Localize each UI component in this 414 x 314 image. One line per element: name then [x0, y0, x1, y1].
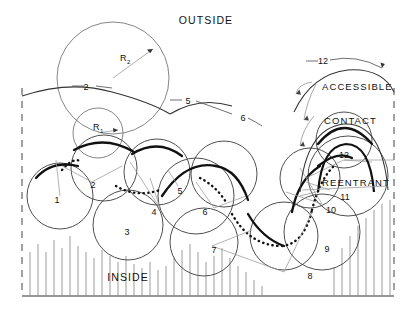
pointer-contact: [304, 84, 316, 120]
atom-sphere-3: [93, 190, 163, 260]
atom-sphere-7: [170, 208, 238, 276]
figure-canvas: OUTSIDE INSIDE ACCESSIBLE CONTACT REENTR…: [0, 0, 414, 314]
atom-label-10: 10: [326, 205, 336, 215]
atom-label-4: 4: [151, 207, 156, 217]
leader-arc-2-right: [96, 86, 112, 88]
radius-R2-base: R: [120, 53, 127, 63]
label-reentrant: REENTRANT: [322, 177, 390, 188]
atom-label-6: 6: [202, 207, 207, 217]
atom-label-8: 8: [307, 271, 312, 281]
label-inside: INSIDE: [107, 271, 149, 283]
molecular-surface: [27, 112, 388, 276]
construction-circles: [57, 22, 169, 158]
radius-R2-subscript: 2: [127, 59, 131, 65]
atom-spheres: [27, 112, 388, 276]
atom-sphere-2: [71, 135, 137, 201]
callout-arc-5: 5: [185, 96, 190, 106]
label-contact: CONTACT: [324, 115, 377, 126]
molecular-surface-figure: OUTSIDE INSIDE ACCESSIBLE CONTACT REENTR…: [0, 0, 414, 314]
label-outside: OUTSIDE: [179, 14, 233, 26]
atom-label-2: 2: [90, 180, 95, 190]
callout-arc-6: 6: [240, 113, 245, 123]
atom-label-11: 11: [340, 192, 349, 202]
leader-arc-12-right: [330, 58, 382, 68]
atom-label-1: 1: [54, 195, 59, 205]
radius-label-R2: R 2: [120, 53, 131, 65]
callout-arc-2: 2: [83, 82, 88, 92]
atom-label-5: 5: [177, 186, 182, 196]
callout-arc-12: 12: [318, 56, 328, 66]
atom-label-9: 9: [324, 244, 329, 254]
leader-arc-6: [248, 118, 262, 126]
label-accessible: ACCESSIBLE: [322, 81, 393, 92]
radius-R1-base: R: [93, 122, 100, 132]
atom-label-7: 7: [211, 245, 216, 255]
pointer-contact-2: [300, 116, 314, 146]
atom-label-3: 3: [124, 227, 129, 237]
radius-arrow-R2: [113, 49, 153, 78]
